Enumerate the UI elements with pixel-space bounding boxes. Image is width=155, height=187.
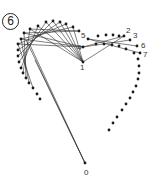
pin-dot [125, 48, 128, 51]
pin-dot [132, 91, 135, 94]
pin-dot [118, 45, 121, 48]
pin-dot [129, 97, 132, 100]
pin-dot [125, 103, 128, 106]
pin-dot [23, 32, 26, 35]
pin-dot [22, 72, 25, 75]
numbered-pin-dot [139, 52, 142, 55]
pin-dot [39, 98, 42, 101]
string-line [83, 36, 124, 62]
numbered-pin-dot [84, 162, 87, 165]
step-number-label: 6 [7, 14, 14, 28]
numbered-pin-dot [136, 45, 139, 48]
pin-dot [28, 82, 31, 85]
pin-dot [103, 43, 106, 46]
string-line [60, 22, 83, 62]
numbered-pin-dot [87, 38, 90, 41]
pin-dot [138, 65, 141, 68]
point-number-label: 3 [133, 31, 138, 40]
pin-dot [121, 109, 124, 112]
heart-string-art-diagram: 6 01234567 [0, 0, 155, 187]
point-number-label: 0 [84, 168, 89, 177]
pin-dot [112, 122, 115, 125]
string-line [83, 40, 130, 47]
pin-dot [18, 61, 21, 64]
pin-dot [95, 43, 98, 46]
point-number-label: 7 [143, 50, 148, 59]
pin-dot [72, 26, 75, 29]
pin-dot [17, 55, 20, 58]
pin-dot [97, 35, 100, 38]
pin-dot [118, 35, 121, 38]
pin-dot [105, 34, 108, 37]
pin-dot [137, 78, 140, 81]
pin-dot [37, 25, 40, 28]
string-line [26, 40, 85, 163]
string-line [24, 31, 79, 33]
step-number-badge: 6 [2, 13, 19, 30]
pin-dot [52, 20, 55, 23]
pin-dot [111, 44, 114, 47]
pin-dot [29, 28, 32, 31]
heart-curve-stitching: 01234567 [0, 0, 155, 187]
pin-dot [32, 87, 35, 90]
numbered-pin-dot [123, 35, 126, 38]
point-number-label: 6 [141, 41, 146, 50]
string-line [88, 39, 140, 53]
point-number-label: 2 [126, 26, 131, 35]
numbered-pin-dot [82, 46, 85, 49]
pin-dot [133, 52, 136, 55]
point-number-label: 4 [77, 43, 82, 52]
pin-dot [78, 30, 81, 33]
pin-dot [135, 85, 138, 88]
pin-dot [108, 129, 111, 132]
pin-dot [59, 21, 62, 24]
pin-dot [36, 93, 39, 96]
pin-dot [17, 43, 20, 46]
pin-dot [17, 49, 20, 52]
string-line [30, 29, 79, 31]
numbered-pin-dot [129, 39, 132, 42]
pin-dot [20, 38, 23, 41]
pin-dot [25, 77, 28, 80]
point-number-label: 1 [80, 63, 85, 72]
point-number-label: 5 [81, 31, 86, 40]
pin-dot [65, 23, 68, 26]
pin-dot [138, 72, 141, 75]
pin-dot [20, 67, 23, 70]
pin-dot [137, 58, 140, 61]
pin-dot [45, 21, 48, 24]
string-line [18, 44, 33, 88]
pin-dot [116, 116, 119, 119]
point-labels: 01234567 [77, 26, 148, 177]
pin-dot [112, 34, 115, 37]
